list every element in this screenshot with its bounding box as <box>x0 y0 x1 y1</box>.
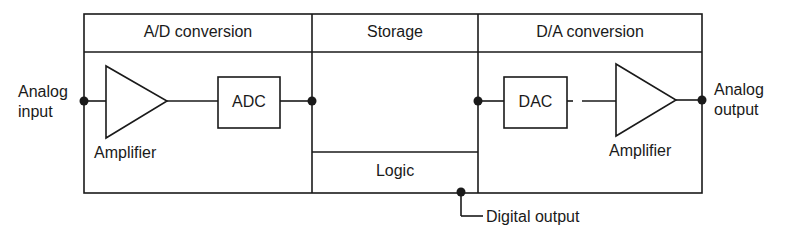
section-da-conversion-label: D/A conversion <box>478 22 702 41</box>
analog-output-label-line2: output <box>714 100 758 119</box>
amplifier-right-symbol <box>616 64 676 136</box>
input-node <box>80 97 89 106</box>
amplifier-left-symbol <box>106 66 167 138</box>
amplifier-right-label: Amplifier <box>609 141 671 160</box>
dac-label: DAC <box>504 92 567 111</box>
output-node <box>698 96 707 105</box>
adc-output-node <box>308 97 317 106</box>
section-storage-label: Storage <box>312 22 478 41</box>
dac-input-node <box>474 97 483 106</box>
digital-output-node <box>457 188 466 197</box>
adc-label: ADC <box>218 92 280 111</box>
digital-output-label: Digital output <box>486 207 579 226</box>
analog-input-label-line2: input <box>18 102 53 121</box>
analog-input-label-line1: Analog <box>18 82 68 101</box>
section-ad-conversion-label: A/D conversion <box>84 22 312 41</box>
logic-label: Logic <box>312 161 478 180</box>
analog-output-label-line1: Analog <box>714 80 764 99</box>
amplifier-left-label: Amplifier <box>94 143 156 162</box>
